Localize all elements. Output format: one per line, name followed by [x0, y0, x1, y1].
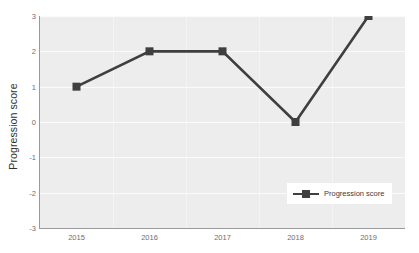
y-axis-tick-label: -2 [22, 188, 36, 197]
y-axis-title: Progression score [2, 0, 24, 253]
y-axis-line [39, 16, 40, 229]
x-axis-tick-label: 2016 [141, 233, 158, 242]
y-axis-tick-label: -3 [22, 224, 36, 233]
y-axis-tick-labels: 3210-1-2-3 [22, 16, 36, 228]
data-point-marker [292, 118, 300, 126]
x-axis-line [39, 228, 405, 229]
legend-marker-icon [293, 189, 319, 199]
data-point-marker [219, 47, 227, 55]
y-axis-tick-label: -1 [22, 153, 36, 162]
y-axis-tick-label: 1 [22, 82, 36, 91]
data-point-marker [73, 83, 81, 91]
x-axis-tick-labels: 20152016201720182019 [40, 233, 405, 247]
chart-legend: Progression score [287, 183, 392, 204]
data-point-marker [146, 47, 154, 55]
x-axis-tick-label: 2015 [68, 233, 85, 242]
x-axis-tick-label: 2017 [214, 233, 231, 242]
y-axis-tick-label: 2 [22, 47, 36, 56]
data-point-marker [365, 16, 373, 20]
x-axis-tick-label: 2019 [360, 233, 377, 242]
y-axis-tick-label: 0 [22, 118, 36, 127]
y-axis-tick-label: 3 [22, 12, 36, 21]
line-chart: Progression score 3210-1-2-3 20152016201… [0, 0, 419, 253]
legend-item-label: Progression score [324, 189, 384, 198]
series-line [77, 16, 369, 122]
x-axis-tick-label: 2018 [287, 233, 304, 242]
